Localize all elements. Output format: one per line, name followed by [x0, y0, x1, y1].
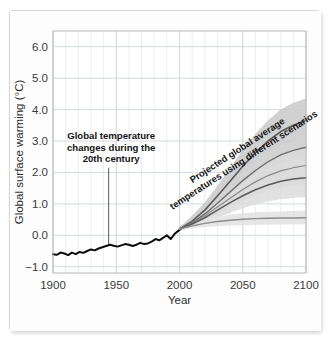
y-tick-label: 1.0 [32, 198, 48, 210]
y-tick-label: 3.0 [32, 135, 48, 147]
x-tick-label: 1950 [103, 279, 129, 291]
historical-annotation-line: changes during the [67, 142, 156, 153]
x-tick-label: 1900 [40, 279, 66, 291]
climate-projection-chart: 6.05.04.03.02.01.00.0−1.0 19001950200020… [10, 11, 321, 331]
chart-svg: 6.05.04.03.02.01.00.0−1.0 19001950200020… [10, 11, 321, 331]
x-tick-label: 2050 [230, 279, 256, 291]
chart-card: 6.05.04.03.02.01.00.0−1.0 19001950200020… [9, 10, 320, 330]
historical-annotation-line: 20th century [83, 153, 141, 164]
y-tick-label: 2.0 [32, 166, 48, 178]
y-tick-label: 6.0 [32, 41, 48, 53]
x-tick-label: 2000 [167, 279, 193, 291]
x-tick-label: 2100 [293, 279, 319, 291]
y-tick-label: −1.0 [25, 261, 48, 273]
y-tick-label: 4.0 [32, 104, 48, 116]
historical-annotation-line: Global temperature [67, 130, 155, 141]
x-axis-title: Year [168, 294, 191, 306]
y-axis-title: Global surface warming (°C) [13, 80, 25, 225]
y-tick-label: 0.0 [32, 229, 48, 241]
y-tick-label: 5.0 [32, 72, 48, 84]
